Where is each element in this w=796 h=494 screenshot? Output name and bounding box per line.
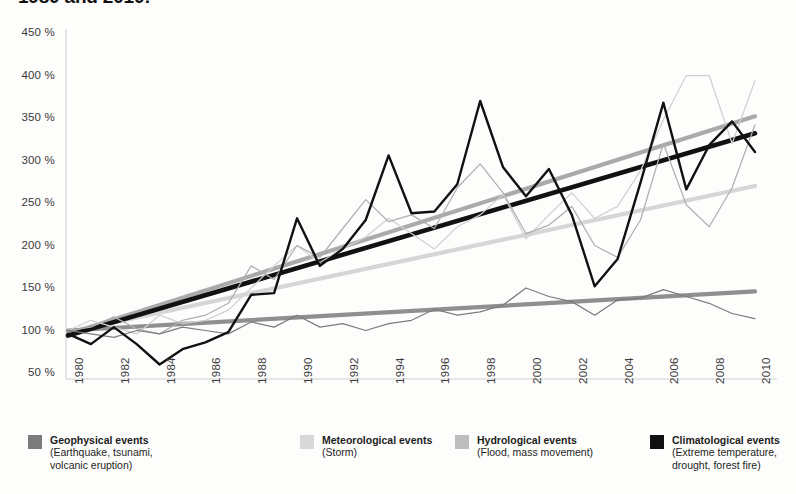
legend-swatch-icon: [650, 435, 664, 449]
y-tick-100: 100 %: [13, 324, 55, 336]
data-line-meteorological-events: [68, 76, 755, 334]
legend-item-meteorological-events[interactable]: Meteorological events(Storm): [300, 434, 432, 459]
legend-subtitle: drought, forest fire): [672, 459, 780, 471]
legend-label: Hydrological events(Flood, mass movement…: [477, 434, 593, 459]
trend-line-climatological-events: [68, 133, 755, 335]
x-tick-2008: 2008: [714, 357, 726, 384]
legend-subtitle: (Extreme temperature,: [672, 446, 780, 458]
legend-title: Climatological events: [672, 434, 780, 446]
legend-label: Geophysical events(Earthquake, tsunami,v…: [50, 434, 153, 471]
y-tick-300: 300 %: [13, 154, 55, 166]
x-tick-1984: 1984: [165, 357, 177, 384]
y-tick-200: 200 %: [13, 239, 55, 251]
legend-subtitle: volcanic eruption): [50, 459, 153, 471]
legend-item-climatological-events[interactable]: Climatological events(Extreme temperatur…: [650, 434, 780, 471]
trend-line-hydrological-events: [68, 116, 755, 334]
chart-page: 1980 and 2010: 450 %400 %350 %300 %250 %…: [0, 0, 796, 494]
legend-label: Meteorological events(Storm): [322, 434, 432, 459]
y-tick-250: 250 %: [13, 196, 55, 208]
y-tick-50: 50 %: [13, 366, 55, 378]
y-tick-150: 150 %: [13, 281, 55, 293]
legend-title: Meteorological events: [322, 434, 432, 446]
x-tick-2010: 2010: [760, 357, 772, 384]
legend-subtitle: (Flood, mass movement): [477, 446, 593, 458]
y-tick-400: 400 %: [13, 69, 55, 81]
x-tick-1988: 1988: [256, 357, 268, 384]
y-tick-350: 350 %: [13, 111, 55, 123]
legend-subtitle: (Earthquake, tsunami,: [50, 446, 153, 458]
chart-legend: Geophysical events(Earthquake, tsunami,v…: [0, 430, 796, 494]
x-tick-2002: 2002: [577, 357, 589, 384]
x-tick-2000: 2000: [531, 357, 543, 384]
legend-label: Climatological events(Extreme temperatur…: [672, 434, 780, 471]
x-tick-2006: 2006: [668, 357, 680, 384]
x-tick-1992: 1992: [348, 357, 360, 384]
chart-area: 450 %400 %350 %300 %250 %200 %150 %100 %…: [0, 0, 796, 420]
legend-item-hydrological-events[interactable]: Hydrological events(Flood, mass movement…: [455, 434, 593, 459]
legend-title: Geophysical events: [50, 434, 153, 446]
x-tick-1982: 1982: [119, 357, 131, 384]
legend-swatch-icon: [28, 435, 42, 449]
legend-item-geophysical-events[interactable]: Geophysical events(Earthquake, tsunami,v…: [28, 434, 153, 471]
x-tick-1986: 1986: [210, 357, 222, 384]
legend-title: Hydrological events: [477, 434, 593, 446]
x-tick-1998: 1998: [485, 357, 497, 384]
x-tick-2004: 2004: [623, 357, 635, 384]
legend-subtitle: (Storm): [322, 446, 432, 458]
legend-swatch-icon: [455, 435, 469, 449]
x-tick-1996: 1996: [439, 357, 451, 384]
y-tick-450: 450 %: [13, 26, 55, 38]
legend-swatch-icon: [300, 435, 314, 449]
x-tick-1994: 1994: [394, 357, 406, 384]
x-tick-1990: 1990: [302, 357, 314, 384]
x-tick-1980: 1980: [73, 357, 85, 384]
